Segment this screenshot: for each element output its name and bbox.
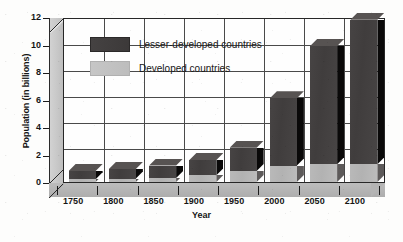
x-tick-label: 1950 xyxy=(217,196,251,206)
legend-item: Lesser-developed countries xyxy=(90,37,262,52)
x-tick-mark xyxy=(57,186,58,195)
legend-item: Developed countries xyxy=(90,61,230,76)
legend-label: Developed countries xyxy=(139,63,230,74)
bar-segment-lesser-developed xyxy=(69,171,96,179)
bar-side-face xyxy=(176,166,183,178)
legend-swatch-lesser-developed xyxy=(90,37,130,52)
y-tick-label: 12 xyxy=(19,12,41,22)
gridline-x xyxy=(264,19,265,182)
bar-face xyxy=(310,164,337,182)
bar-face xyxy=(310,46,337,164)
bar-segment-developed xyxy=(350,164,377,182)
bar-face xyxy=(270,166,297,183)
floor-3d xyxy=(49,183,385,197)
x-tick-label: 1850 xyxy=(137,196,171,206)
bar-side-face xyxy=(96,171,103,179)
bar-face xyxy=(109,179,136,182)
x-tick-label: 2050 xyxy=(298,196,332,206)
x-tick-mark xyxy=(339,186,340,195)
bar-top-face xyxy=(230,141,264,148)
bar-face xyxy=(350,164,377,182)
bar-1900 xyxy=(189,160,216,182)
bar-segment-developed xyxy=(149,178,176,182)
bar-face xyxy=(69,179,96,182)
x-tick-mark xyxy=(138,186,139,195)
x-tick-label: 1800 xyxy=(96,196,130,206)
bar-side-face xyxy=(297,98,304,165)
bar-segment-lesser-developed xyxy=(149,166,176,178)
x-tick-mark xyxy=(218,186,219,195)
bar-segment-developed xyxy=(189,175,216,182)
bar-segment-lesser-developed xyxy=(230,148,257,171)
x-tick-mark xyxy=(258,186,259,195)
bar-face xyxy=(189,160,216,175)
y-tick-label: 10 xyxy=(19,40,41,50)
bar-segment-developed xyxy=(310,164,337,182)
y-tick-label: 2 xyxy=(19,150,41,160)
bar-side-face xyxy=(96,179,103,182)
bar-face xyxy=(350,20,377,164)
bar-face xyxy=(189,175,216,182)
legend-swatch-developed xyxy=(90,61,130,76)
bar-segment-lesser-developed xyxy=(189,160,216,175)
bar-side-face xyxy=(377,164,384,182)
axis-wall-3d xyxy=(49,18,64,183)
bar-2000 xyxy=(270,98,297,182)
y-tick-label: 8 xyxy=(19,67,41,77)
y-tick-label: 0 xyxy=(19,177,41,187)
bar-segment-developed xyxy=(69,179,96,182)
bar-side-face xyxy=(216,175,223,182)
bar-segment-developed xyxy=(230,171,257,182)
bar-face xyxy=(149,166,176,178)
bar-side-face xyxy=(257,148,264,171)
plot-area: Lesser-developed countries Developed cou… xyxy=(63,18,385,183)
bar-side-face xyxy=(377,20,384,164)
x-tick-label: 2000 xyxy=(257,196,291,206)
bar-2050 xyxy=(310,46,337,182)
bar-1800 xyxy=(109,169,136,182)
x-tick-label: 2100 xyxy=(338,196,372,206)
bar-top-face xyxy=(69,164,103,171)
bar-face xyxy=(230,171,257,182)
bar-1950 xyxy=(230,148,257,182)
bar-side-face xyxy=(216,160,223,175)
bar-top-face xyxy=(149,159,183,166)
x-tick-mark xyxy=(97,186,98,195)
bar-side-face xyxy=(257,171,264,182)
bar-segment-lesser-developed xyxy=(270,98,297,165)
bar-top-face xyxy=(109,162,143,169)
legend-label: Lesser-developed countries xyxy=(139,39,262,50)
x-tick-label: 1900 xyxy=(177,196,211,206)
bar-side-face xyxy=(176,178,183,182)
bar-2100 xyxy=(350,20,377,182)
bar-segment-developed xyxy=(270,166,297,183)
bar-segment-lesser-developed xyxy=(350,20,377,164)
bar-face xyxy=(69,171,96,179)
x-tick-label: 1750 xyxy=(56,196,90,206)
bar-side-face xyxy=(136,169,143,179)
bar-segment-lesser-developed xyxy=(310,46,337,164)
bar-face xyxy=(109,169,136,179)
bar-side-face xyxy=(136,179,143,182)
bar-face xyxy=(230,148,257,171)
bar-face xyxy=(149,178,176,182)
chart-figure: Population (in billions) Lesser-develope… xyxy=(0,0,403,242)
bar-segment-lesser-developed xyxy=(109,169,136,179)
x-tick-mark xyxy=(178,186,179,195)
x-axis-title: Year xyxy=(0,210,403,220)
bar-top-face xyxy=(189,153,223,160)
bar-segment-developed xyxy=(109,179,136,182)
bar-1850 xyxy=(149,166,176,183)
y-tick-label: 4 xyxy=(19,122,41,132)
bar-face xyxy=(270,98,297,165)
bar-1750 xyxy=(69,171,96,182)
bar-side-face xyxy=(337,46,344,164)
bar-side-face xyxy=(297,166,304,183)
x-tick-mark xyxy=(299,186,300,195)
gridline-x xyxy=(304,19,305,182)
y-tick-label: 6 xyxy=(19,95,41,105)
bar-top-face xyxy=(350,13,384,20)
x-tick-mark xyxy=(379,186,380,195)
gridline-x xyxy=(344,19,345,182)
